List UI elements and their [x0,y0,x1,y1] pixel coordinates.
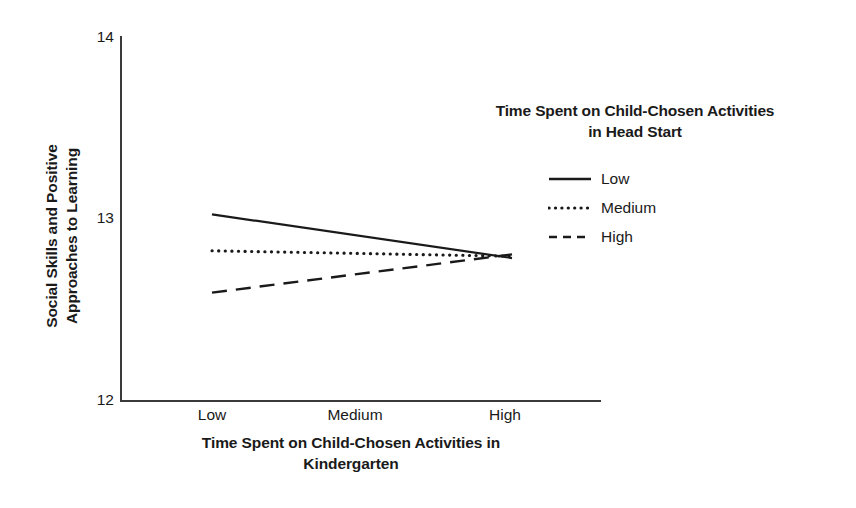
series-line-high [212,254,512,292]
legend-label-medium: Medium [601,199,656,217]
x-axis-title-line-2: Kindergarten [98,453,604,474]
legend-label-high: High [601,228,633,246]
legend-key-solid-line-icon [548,172,592,186]
legend-items: Low Medium High [426,164,844,251]
legend-label-low: Low [601,170,629,188]
legend-item-medium[interactable]: Medium [548,193,844,222]
x-axis-title: Time Spent on Child-Chosen Activities in… [98,432,604,474]
legend-title-line-2: in Head Start [426,121,844,142]
x-tick-label-medium: Medium [295,406,415,424]
x-tick-label-high: High [445,406,565,424]
chart-figure: Social Skills and Positive Approaches to… [0,0,856,508]
legend-title-line-1: Time Spent on Child-Chosen Activities [426,100,844,121]
legend-title: Time Spent on Child-Chosen Activities in… [426,100,844,142]
x-axis-title-line-1: Time Spent on Child-Chosen Activities in [98,432,604,453]
legend-item-high[interactable]: High [548,222,844,251]
legend-item-low[interactable]: Low [548,164,844,193]
legend: Time Spent on Child-Chosen Activities in… [426,100,844,251]
x-tick-label-low: Low [152,406,272,424]
legend-key-dotted-line-icon [548,201,592,215]
legend-key-dashed-line-icon [548,230,592,244]
